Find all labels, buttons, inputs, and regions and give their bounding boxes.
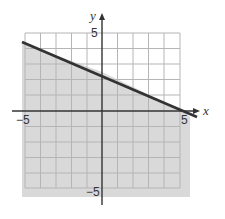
y-tick-min: −5 <box>86 185 100 199</box>
y-tick-max: 5 <box>91 26 98 40</box>
x-axis-arrow-icon <box>193 108 200 114</box>
y-axis-label: y <box>88 8 96 23</box>
graph: x y −5 5 5 −5 <box>0 0 225 219</box>
x-tick-min: −5 <box>16 113 30 127</box>
shaded-region <box>22 43 190 197</box>
x-tick-max: 5 <box>181 113 188 127</box>
x-axis-label: x <box>202 103 209 118</box>
y-axis-arrow-icon <box>99 13 105 20</box>
